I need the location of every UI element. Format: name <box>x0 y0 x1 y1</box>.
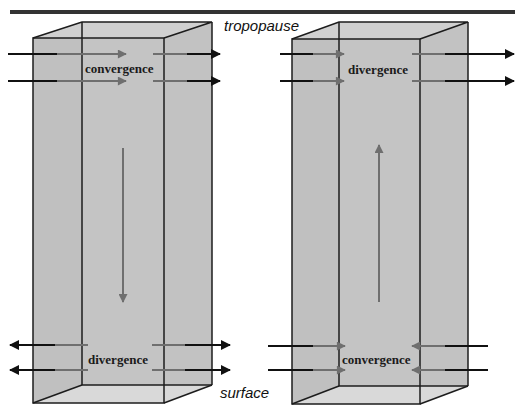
right-lower-label: convergence <box>342 352 411 367</box>
tropopause-label: tropopause <box>224 17 299 34</box>
convergence-divergence-diagram: convergence divergence <box>0 0 515 420</box>
left-lower-label: divergence <box>88 352 148 367</box>
right-upper-label: divergence <box>348 62 408 77</box>
left-upper-label: convergence <box>85 61 154 76</box>
surface-label: surface <box>220 384 269 401</box>
diagram-svg: convergence divergence <box>0 0 515 420</box>
